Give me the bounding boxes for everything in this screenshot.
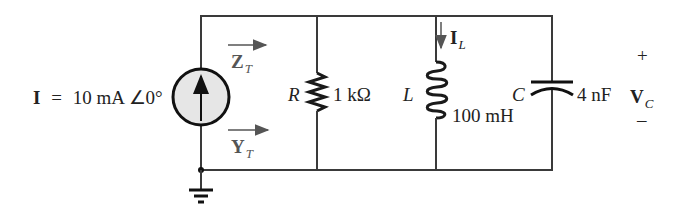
inductor-current-label: IL	[450, 28, 466, 47]
current-source-icon	[173, 69, 229, 125]
capacitor-name: C	[512, 85, 525, 104]
resistor-name: R	[288, 85, 300, 104]
capacitor-voltage-symbol: V	[630, 86, 644, 107]
inductor-current-symbol: I	[450, 27, 457, 48]
source-value: 10 mA ∠0°	[73, 87, 163, 108]
capacitor-value: 4 nF	[577, 85, 611, 104]
inductor-value: 100 mH	[452, 106, 514, 125]
voltage-plus-sign: +	[637, 46, 648, 65]
inductor-current-subscript: L	[458, 37, 465, 52]
top-wire	[201, 16, 552, 82]
resistor-icon	[309, 16, 325, 170]
inductor-name: L	[403, 85, 414, 104]
total-admittance-label: YT	[231, 137, 253, 156]
source-symbol: I	[33, 87, 40, 108]
impedance-subscript: T	[245, 61, 252, 76]
resistor-value: 1 kΩ	[333, 85, 371, 104]
inductor-icon	[427, 16, 447, 170]
source-label: I = 10 mA ∠0°	[33, 88, 163, 107]
admittance-subscript: T	[246, 146, 253, 161]
capacitor-voltage-label: VC	[630, 87, 653, 106]
impedance-symbol: Z	[231, 51, 244, 72]
source-equals: =	[51, 87, 62, 108]
ground-icon	[189, 167, 213, 202]
circuit-schematic	[0, 0, 682, 221]
circuit-diagram: I = 10 mA ∠0° ZT YT R 1 kΩ L 100 mH IL C…	[0, 0, 682, 221]
total-impedance-label: ZT	[231, 52, 252, 71]
admittance-symbol: Y	[231, 136, 245, 157]
voltage-minus-sign: –	[637, 110, 647, 129]
